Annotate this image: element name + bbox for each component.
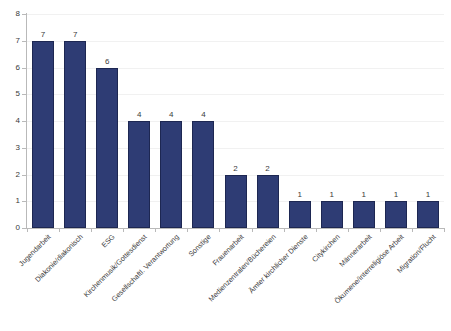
y-axis-tick-label: 0	[0, 224, 20, 232]
bar-value-label: 2	[233, 165, 237, 173]
y-tick-mark	[22, 175, 27, 176]
bar: 1	[385, 201, 407, 228]
bar: 1	[353, 201, 375, 228]
x-tick-mark	[59, 228, 60, 232]
bar: 7	[64, 41, 86, 228]
y-axis-tick-label: 2	[0, 171, 20, 179]
x-axis-category-label-text: Ämter kirchlicher Dienste	[247, 233, 309, 295]
x-tick-mark	[187, 228, 188, 232]
bar-value-label: 1	[394, 191, 398, 199]
x-axis-category-label-text: ESG	[100, 233, 116, 249]
x-tick-mark	[380, 228, 381, 232]
bar-value-label: 7	[73, 31, 77, 39]
x-tick-mark	[316, 228, 317, 232]
y-axis-tick-label: 4	[0, 117, 20, 125]
bar-value-label: 1	[329, 191, 333, 199]
x-tick-mark	[444, 228, 445, 232]
x-tick-mark	[219, 228, 220, 232]
y-tick-mark	[22, 201, 27, 202]
bar-value-label: 4	[137, 111, 141, 119]
bar: 7	[32, 41, 54, 228]
y-axis-tick-label: 1	[0, 197, 20, 205]
gridline	[27, 121, 444, 122]
bar: 1	[417, 201, 439, 228]
bar: 6	[96, 68, 118, 229]
y-tick-mark	[22, 148, 27, 149]
x-tick-mark	[284, 228, 285, 232]
gridline	[27, 41, 444, 42]
bar: 2	[257, 175, 279, 229]
bar: 1	[321, 201, 343, 228]
y-axis-tick-label: 5	[0, 90, 20, 98]
bar-chart: 012345678 7764442211111 JugendarbeitDiak…	[0, 0, 451, 331]
y-tick-mark	[22, 14, 27, 15]
bar-value-label: 6	[105, 58, 109, 66]
bar: 4	[160, 121, 182, 228]
x-tick-mark	[91, 228, 92, 232]
bar-value-label: 7	[41, 31, 45, 39]
bar-value-label: 1	[362, 191, 366, 199]
x-axis-category-label-text: Citykirchen	[311, 233, 341, 263]
x-tick-mark	[27, 228, 28, 232]
gridline	[27, 148, 444, 149]
bar-value-label: 1	[297, 191, 301, 199]
y-axis-tick-label: 3	[0, 144, 20, 152]
bar-value-label: 4	[169, 111, 173, 119]
x-tick-mark	[412, 228, 413, 232]
bar: 1	[289, 201, 311, 228]
x-tick-mark	[155, 228, 156, 232]
x-tick-mark	[348, 228, 349, 232]
bar-value-label: 4	[201, 111, 205, 119]
bar-value-label: 2	[265, 165, 269, 173]
y-tick-mark	[22, 41, 27, 42]
gridline	[27, 94, 444, 95]
y-tick-mark	[22, 68, 27, 69]
gridline	[27, 14, 444, 15]
bar-value-label: 1	[426, 191, 430, 199]
x-tick-mark	[123, 228, 124, 232]
y-tick-mark	[22, 94, 27, 95]
x-axis-line	[26, 228, 445, 229]
x-tick-mark	[252, 228, 253, 232]
y-axis-tick-label: 7	[0, 37, 20, 45]
y-axis-tick-label: 6	[0, 64, 20, 72]
bar: 4	[128, 121, 150, 228]
y-axis-tick-label: 8	[0, 10, 20, 18]
x-axis-category-label-text: Frauenarbeit	[211, 233, 245, 267]
x-axis-category-label-text: Kirchenmusik/Gottesdienst	[83, 233, 149, 299]
x-axis-category-label-text: Gesellschaftl. Verantwortung	[111, 233, 181, 303]
gridline	[27, 68, 444, 69]
bar: 4	[192, 121, 214, 228]
y-tick-mark	[22, 121, 27, 122]
x-axis-category-label-text: Sonstige	[188, 233, 213, 258]
bar: 2	[225, 175, 247, 229]
x-axis-category-label-text: Ökumene/interreligiöse Arbeit	[333, 233, 405, 305]
